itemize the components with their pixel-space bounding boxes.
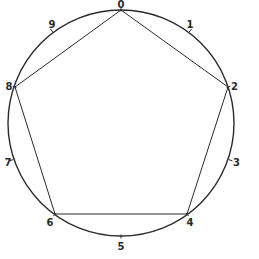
point-label-3: 3: [233, 157, 240, 168]
point-label-1: 1: [187, 19, 194, 30]
point-label-4: 4: [187, 217, 194, 228]
point-label-8: 8: [6, 81, 13, 92]
point-label-9: 9: [49, 19, 56, 30]
point-label-6: 6: [47, 217, 54, 228]
circle-pentagon-diagram: 0123456789: [0, 0, 259, 259]
point-label-0: 0: [118, 0, 125, 10]
inscribed-pentagon: [15, 10, 228, 214]
point-label-2: 2: [231, 81, 238, 92]
outer-circle: [8, 10, 234, 236]
point-label-7: 7: [5, 157, 12, 168]
point-label-5: 5: [118, 241, 125, 252]
tick-mark-3: [229, 160, 233, 161]
